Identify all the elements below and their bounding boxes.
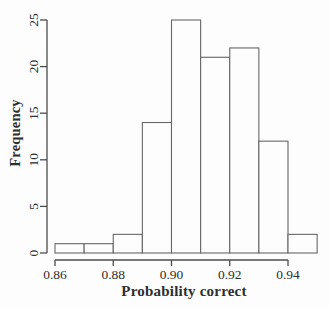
histogram-bar (113, 234, 142, 253)
x-tick-label: 0.90 (160, 267, 184, 282)
histogram-bar (259, 141, 288, 253)
y-tick-label: 10 (26, 153, 41, 167)
histogram-bar (55, 244, 84, 253)
histogram-bar (230, 48, 259, 253)
chart-svg: 05101520250.860.880.900.920.94 (0, 0, 329, 309)
y-tick-label: 5 (26, 203, 41, 210)
x-axis-title: Probability correct (121, 283, 246, 300)
histogram-bar (288, 234, 317, 253)
x-tick-label: 0.88 (101, 267, 125, 282)
histogram-figure: 05101520250.860.880.900.920.94 Frequency… (0, 0, 329, 309)
histogram-bar (201, 57, 230, 253)
histogram-bar (84, 244, 113, 253)
y-axis-title: Frequency (7, 99, 24, 167)
y-tick-label: 20 (26, 60, 41, 74)
y-tick-label: 15 (26, 106, 41, 120)
y-tick-label: 25 (26, 13, 41, 27)
x-tick-label: 0.86 (43, 267, 67, 282)
x-tick-label: 0.94 (276, 267, 300, 282)
histogram-bar (142, 123, 171, 253)
x-tick-label: 0.92 (218, 267, 242, 282)
y-tick-label: 0 (26, 249, 41, 256)
histogram-bar (172, 20, 201, 253)
